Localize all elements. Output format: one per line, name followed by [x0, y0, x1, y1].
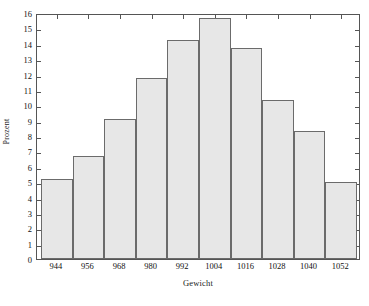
x-tick-label: 1016: [237, 262, 254, 271]
histogram-bar: [104, 119, 136, 259]
x-tick-label: 1040: [300, 262, 317, 271]
y-tick-label: 9: [28, 117, 32, 126]
y-tick-label: 12: [24, 71, 33, 80]
x-tick-label: 1028: [269, 262, 286, 271]
histogram-bar: [41, 179, 73, 259]
plot-area: [36, 14, 360, 260]
histogram-bar: [294, 131, 326, 259]
y-axis-title-text: Prozent: [3, 118, 12, 144]
x-tick-label: 944: [49, 262, 62, 271]
y-tick-label: 11: [24, 87, 32, 96]
x-tick-label: 956: [81, 262, 94, 271]
x-tick-label: 1052: [332, 262, 349, 271]
x-tick-label: 992: [176, 262, 189, 271]
y-tick-label: 14: [24, 41, 33, 50]
histogram-bar: [73, 156, 105, 259]
y-axis-title: Prozent: [0, 0, 14, 262]
y-tick-label: 2: [28, 225, 32, 234]
y-tick-label: 16: [24, 10, 33, 19]
x-axis-title: Gewicht: [36, 278, 360, 288]
bars-layer: [37, 15, 359, 259]
y-tick-label: 10: [24, 102, 33, 111]
x-tick-label: 980: [144, 262, 157, 271]
y-tick-label: 3: [28, 210, 32, 219]
y-tick-label: 5: [28, 179, 32, 188]
y-axis-tick-labels: 012345678910111213141516: [14, 14, 34, 260]
y-tick-label: 15: [24, 25, 33, 34]
histogram-bar: [262, 100, 294, 259]
y-tick-label: 8: [28, 133, 32, 142]
histogram-bar: [231, 48, 263, 259]
histogram-chart: Prozent 012345678910111213141516 9449569…: [0, 0, 369, 306]
histogram-bar: [325, 182, 357, 259]
y-tick-label: 4: [28, 194, 32, 203]
x-tick-label: 1004: [205, 262, 222, 271]
x-axis-tick-labels: 94495696898099210041016102810401052: [36, 262, 360, 276]
y-tick-label: 1: [28, 240, 32, 249]
histogram-bar: [167, 40, 199, 259]
y-tick-label: 0: [28, 256, 32, 265]
x-tick-label: 968: [113, 262, 126, 271]
y-tick-label: 13: [24, 56, 33, 65]
y-tick-label: 6: [28, 164, 32, 173]
histogram-bar: [136, 78, 168, 259]
histogram-bar: [199, 18, 231, 259]
y-tick-label: 7: [28, 148, 32, 157]
